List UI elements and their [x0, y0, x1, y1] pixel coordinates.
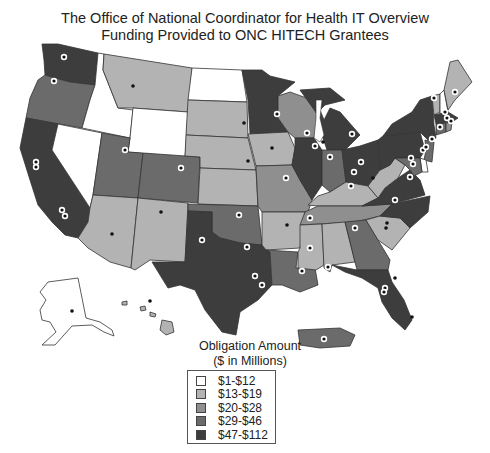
legend-label: $20-$28 — [218, 401, 262, 415]
legend-swatch — [196, 389, 206, 399]
state-nd — [188, 68, 247, 102]
state-ar — [262, 212, 305, 250]
legend-label: $1-$12 — [218, 374, 255, 388]
legend-swatch — [196, 430, 206, 440]
state-nm — [131, 198, 188, 270]
state-me — [444, 60, 472, 110]
legend-subtitle: ($ in Millions) — [170, 354, 330, 368]
legend: $1-$12 $13-$19 $20-$28 $29-$46 $47-$112 — [187, 370, 276, 444]
state-ks — [198, 168, 258, 206]
legend-swatch — [196, 416, 206, 426]
state-hi — [160, 320, 174, 335]
state-mt — [103, 54, 192, 112]
legend-item: $13-$19 — [196, 388, 275, 402]
legend-label: $13-$19 — [218, 387, 262, 401]
legend-item: $47-$112 — [196, 428, 275, 442]
state-hi-islands — [122, 301, 156, 317]
state-co — [138, 153, 200, 203]
legend-swatch — [196, 403, 206, 413]
state-wy — [128, 108, 188, 158]
legend-title: Obligation Amount — [170, 339, 330, 353]
legend-item: $1-$12 — [196, 374, 275, 388]
legend-label: $29-$46 — [218, 414, 262, 428]
legend-item: $20-$28 — [196, 401, 275, 415]
legend-item: $29-$46 — [196, 415, 275, 429]
state-fl — [332, 265, 412, 330]
state-ny — [383, 96, 436, 140]
state-ak — [40, 278, 114, 345]
legend-swatch — [196, 376, 206, 386]
state-sd — [186, 100, 248, 138]
legend-label: $47-$112 — [218, 428, 268, 442]
